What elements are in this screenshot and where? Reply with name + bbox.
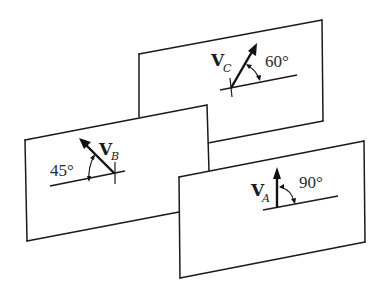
- panel-b-vector-subscript: B: [110, 150, 119, 163]
- panel-a-angle-label: 90°: [299, 173, 323, 192]
- panel-a-right-edge: [364, 141, 365, 242]
- panel-a-vector-subscript: A: [261, 192, 270, 205]
- panel-a-left-edge: [179, 177, 180, 278]
- panel-c-angle-label: 60°: [265, 52, 289, 71]
- panel-b-angle-label: 45°: [50, 161, 74, 180]
- panel-c-vector-subscript: C: [223, 62, 232, 75]
- vector-planes-diagram: V C 60° V B 45°: [0, 0, 387, 289]
- panel-c-right-edge: [322, 20, 323, 121]
